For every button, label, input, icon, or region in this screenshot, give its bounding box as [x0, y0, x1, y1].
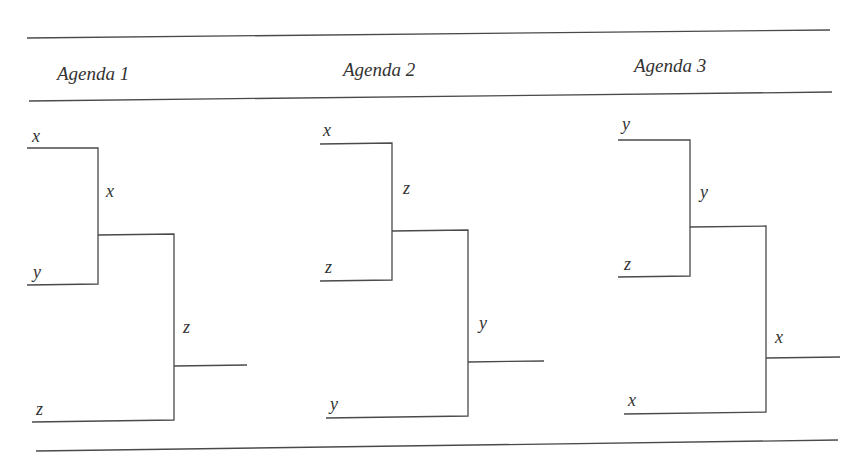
agenda-1-round1-winner: x: [105, 181, 114, 201]
agenda-3-outcome-line: [766, 357, 840, 358]
agenda-1-leaf-3: z: [35, 399, 43, 419]
agenda-1-header: Agenda 1: [55, 63, 129, 84]
agenda-3-leaf-1: y: [620, 114, 630, 134]
agenda-1-outcome-line: [174, 365, 247, 366]
agenda-2-second-bracket: [326, 230, 468, 418]
agenda-1-tree: x y z x z: [27, 126, 247, 422]
agenda-2-leaf-2: z: [324, 257, 332, 277]
agenda-2-round1-winner: z: [402, 178, 410, 198]
agenda-trees-figure: Agenda 1 Agenda 2 Agenda 3 x y z x z x z…: [0, 0, 861, 469]
agenda-2-outcome-line: [468, 361, 544, 362]
agenda-3-header: Agenda 3: [632, 55, 706, 76]
agenda-3-leaf-3: x: [627, 390, 636, 410]
agenda-2-final-winner: y: [477, 313, 487, 333]
agenda-2-header: Agenda 2: [341, 59, 416, 80]
bottom-rule: [36, 440, 838, 451]
agenda-3-round1-winner: y: [698, 182, 708, 202]
agenda-1-final-winner: z: [182, 317, 190, 337]
agenda-1-second-bracket: [32, 234, 174, 422]
header-rule: [29, 92, 832, 101]
agenda-1-leaf-1: x: [31, 126, 40, 146]
agenda-2-tree: x z y z y: [320, 120, 544, 418]
agenda-2-leaf-3: y: [328, 394, 338, 414]
agenda-3-tree: y z x y x: [618, 114, 840, 414]
top-rule: [27, 30, 830, 38]
agenda-3-final-winner: x: [774, 327, 783, 347]
agenda-3-leaf-2: z: [623, 254, 631, 274]
agenda-3-second-bracket: [624, 226, 766, 414]
agenda-2-leaf-1: x: [322, 120, 331, 140]
agenda-1-leaf-2: y: [31, 262, 41, 282]
